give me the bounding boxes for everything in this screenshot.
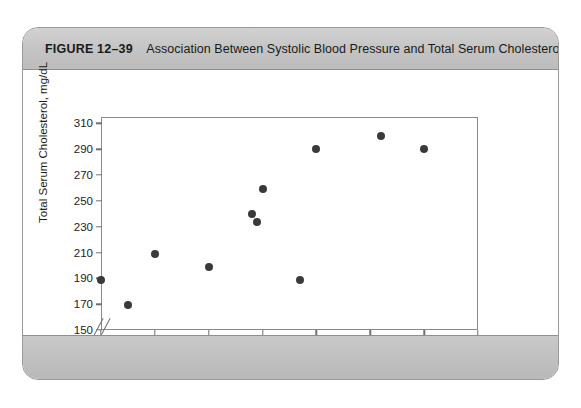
figure-footer-banner — [23, 335, 558, 379]
y-tick-label: 290 — [49, 143, 93, 155]
data-point — [248, 210, 256, 218]
figure-card: FIGURE 12–39 Association Between Systoli… — [22, 27, 559, 380]
y-tick-mark — [96, 174, 102, 175]
figure-header-text: FIGURE 12–39 Association Between Systoli… — [45, 42, 559, 56]
data-point — [97, 276, 105, 284]
y-tick-label: 170 — [49, 298, 93, 310]
y-tick-mark — [96, 226, 102, 227]
data-point — [296, 276, 304, 284]
figure-caption-label: Association Between Systolic Blood Press… — [146, 42, 559, 56]
figure-header-banner: FIGURE 12–39 Association Between Systoli… — [23, 28, 558, 70]
y-tick-label: 310 — [49, 117, 93, 129]
y-tick-label: 250 — [49, 195, 93, 207]
data-point — [253, 218, 261, 226]
y-tick-mark — [96, 252, 102, 253]
y-axis-title: Total Serum Cholesterol, mg/dL — [37, 62, 49, 223]
y-tick-label: 270 — [49, 169, 93, 181]
y-tick-mark — [96, 149, 102, 150]
y-tick-mark — [96, 123, 102, 124]
y-tick-label: 190 — [49, 272, 93, 284]
y-tick-mark — [96, 200, 102, 201]
y-tick-label: 230 — [49, 221, 93, 233]
data-point — [151, 250, 159, 258]
data-point — [205, 263, 213, 271]
figure-body: 150170190210230250270290310 100110120130… — [23, 70, 558, 336]
y-tick-mark — [96, 303, 102, 304]
scatter-chart: 150170190210230250270290310 100110120130… — [23, 70, 558, 336]
figure-number-label: FIGURE 12–39 — [45, 42, 133, 56]
data-point — [259, 185, 267, 193]
y-tick-label: 210 — [49, 247, 93, 259]
